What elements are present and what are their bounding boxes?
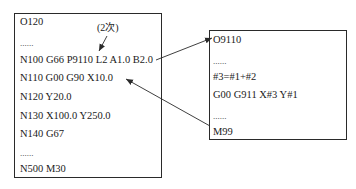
- connector-arrows: [0, 0, 356, 189]
- call-arrow: [156, 38, 212, 60]
- return-arrow: [126, 79, 210, 126]
- annotation-arrow: [99, 36, 107, 51]
